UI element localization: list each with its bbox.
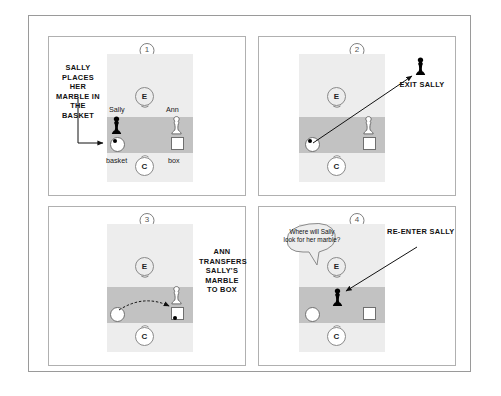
- figure-canvas: 1 SALLY PLACES HER MARBLE IN THE BASKET …: [0, 0, 501, 396]
- panel-2: 2 E C EXIT SALLY: [258, 36, 456, 196]
- basket-icon: [305, 307, 320, 322]
- box-icon: [363, 137, 376, 150]
- panel-4: 4 E C Where will Sally look for her marb…: [258, 206, 456, 366]
- sally-pawn-icon: [111, 116, 122, 135]
- entrance-tag-e: E: [135, 257, 154, 282]
- label-sally: Sally: [109, 105, 125, 114]
- entrance-tag-e: E: [135, 87, 154, 112]
- entrance-tag-e: E: [327, 257, 346, 282]
- label-box: box: [168, 156, 180, 165]
- box-icon: [171, 137, 184, 150]
- tag-e-label: E: [135, 87, 154, 106]
- tag-c-label: C: [135, 327, 154, 346]
- panel-4-caption: RE-ENTER SALLY: [387, 227, 449, 237]
- panel-3: 3 E C ANN TRANSFERS SALLY'S MARBLE TO BO…: [48, 206, 246, 366]
- child-tag-c: C: [135, 327, 154, 352]
- tag-e-label: E: [327, 257, 346, 276]
- panel-1-caption: SALLY PLACES HER MARBLE IN THE BASKET: [55, 63, 101, 121]
- tag-c-label: C: [135, 157, 154, 176]
- box-icon: [363, 307, 376, 320]
- ann-pawn-icon: [363, 116, 374, 135]
- panel-3-caption: ANN TRANSFERS SALLY'S MARBLE TO BOX: [199, 247, 245, 295]
- tag-e-label: E: [327, 87, 346, 106]
- label-basket: basket: [106, 156, 127, 165]
- sally-pawn-icon: [332, 288, 343, 307]
- marble-icon: [308, 139, 312, 143]
- child-tag-c: C: [327, 327, 346, 352]
- tag-c-label: C: [327, 157, 346, 176]
- entrance-tag-e: E: [327, 87, 346, 112]
- basket-icon: [110, 307, 125, 322]
- label-ann: Ann: [166, 105, 179, 114]
- sally-pawn-icon: [415, 57, 426, 76]
- ann-pawn-icon: [171, 116, 182, 135]
- child-tag-c: C: [327, 157, 346, 182]
- panel-1: 1 SALLY PLACES HER MARBLE IN THE BASKET …: [48, 36, 246, 196]
- question-bubble-text: Where will Sally look for her marble?: [283, 228, 341, 244]
- panel-2-caption: EXIT SALLY: [399, 80, 445, 90]
- marble-icon: [173, 316, 177, 320]
- tag-c-label: C: [327, 327, 346, 346]
- child-tag-c: C: [135, 157, 154, 182]
- marble-icon: [113, 139, 117, 143]
- ann-pawn-icon: [171, 286, 182, 305]
- tag-e-label: E: [135, 257, 154, 276]
